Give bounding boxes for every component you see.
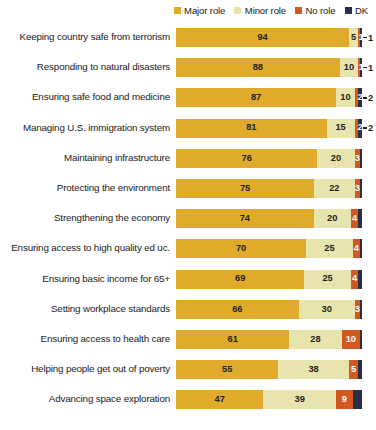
bar-segment-dk[interactable]: 11 [360, 28, 362, 47]
bar-segment-value: 22 [329, 184, 339, 193]
bar-segment-value: 30 [321, 305, 331, 314]
dk-value: 1 [368, 63, 373, 73]
bar-segment-dk[interactable]: 11 [360, 58, 362, 77]
bar-segment-value: 88 [253, 63, 263, 72]
bar-segment-value: 55 [222, 365, 232, 374]
stacked-bar[interactable]: 811522 [176, 119, 362, 138]
bar-segment-minor-role[interactable]: 25 [306, 239, 353, 258]
bar-segment-no-role[interactable]: 4 [353, 239, 360, 258]
bar-segment-major-role[interactable]: 55 [176, 360, 278, 379]
bar-segment-dk[interactable] [358, 360, 362, 379]
bar-segment-major-role[interactable]: 74 [176, 209, 314, 228]
bar-segment-value: 2 [358, 123, 363, 132]
bar-segment-minor-role[interactable]: 5 [349, 28, 358, 47]
legend-item-no-role[interactable]: No role [295, 5, 335, 16]
legend-item-major-role[interactable]: Major role [174, 5, 226, 16]
bar-category-label: Keeping country safe from terrorism [0, 26, 170, 48]
bar-segment-minor-role[interactable]: 20 [317, 149, 354, 168]
bar-segment-minor-role[interactable]: 10 [340, 58, 359, 77]
bar-segment-minor-role[interactable]: 30 [299, 300, 355, 319]
bar-segment-dk[interactable] [360, 149, 362, 168]
chart-row: Maintaining infrastructure76203 [0, 147, 376, 169]
bar-category-label: Managing U.S. immigration system [0, 117, 170, 139]
bar-segment-major-role[interactable]: 87 [176, 88, 336, 107]
bar-segment-value: 47 [215, 395, 225, 404]
bar-segment-value: 76 [242, 154, 252, 163]
bar-segment-value: 69 [235, 274, 245, 283]
bar-segment-dk[interactable]: 22 [358, 88, 362, 107]
bar-segment-major-role[interactable]: 61 [176, 330, 289, 349]
bar-category-label: Ensuring safe food and medicine [0, 86, 170, 108]
bar-segment-minor-role[interactable]: 20 [314, 209, 351, 228]
stacked-bar[interactable]: 47399 [176, 390, 362, 409]
bar-segment-value: 9 [342, 395, 347, 404]
bar-segment-major-role[interactable]: 70 [176, 239, 306, 258]
bar-segment-dk[interactable] [358, 270, 362, 289]
chart-row: Setting workplace standards66303 [0, 298, 376, 320]
bar-segment-value: 10 [340, 93, 350, 102]
bar-segment-minor-role[interactable]: 15 [327, 119, 355, 138]
bar-segment-dk[interactable] [358, 209, 362, 228]
bar-segment-no-role[interactable]: 9 [336, 390, 353, 409]
legend-swatch-minor-role [234, 7, 241, 14]
bar-segment-minor-role[interactable]: 25 [304, 270, 351, 289]
bar-segment-minor-role[interactable]: 22 [314, 179, 355, 198]
legend-label: No role [306, 5, 336, 16]
stacked-bar[interactable]: 75223 [176, 179, 362, 198]
chart-row: Protecting the environment75223 [0, 177, 376, 199]
stacked-bar[interactable]: 55385 [176, 360, 362, 379]
bar-segment-no-role[interactable]: 4 [351, 270, 358, 289]
bar-segment-value: 28 [310, 335, 320, 344]
bar-segment-dk[interactable] [360, 179, 362, 198]
dk-value-callout: 2 [362, 123, 373, 133]
bar-segment-major-role[interactable]: 88 [176, 58, 340, 77]
bar-segment-value: 74 [240, 214, 250, 223]
bar-segment-value: 25 [322, 274, 332, 283]
bar-segment-value: 10 [344, 63, 354, 72]
bar-segment-major-role[interactable]: 76 [176, 149, 317, 168]
stacked-bar[interactable]: 871022 [176, 88, 362, 107]
bar-segment-minor-role[interactable]: 28 [289, 330, 341, 349]
bar-segment-no-role[interactable]: 10 [342, 330, 361, 349]
bar-segment-minor-role[interactable]: 39 [263, 390, 336, 409]
legend-label: DK [355, 5, 368, 16]
bar-segment-minor-role[interactable]: 38 [278, 360, 349, 379]
stacked-bar[interactable]: 74204 [176, 209, 362, 228]
bar-segment-no-role[interactable]: 4 [351, 209, 358, 228]
bar-segment-major-role[interactable]: 75 [176, 179, 314, 198]
bar-segment-value: 70 [236, 244, 246, 253]
bar-segment-value: 66 [232, 305, 242, 314]
stacked-bar[interactable]: 69254 [176, 270, 362, 289]
stacked-bar[interactable]: 94511 [176, 28, 362, 47]
chart-row: Keeping country safe from terrorism94511 [0, 26, 376, 48]
bar-segment-dk[interactable] [353, 390, 362, 409]
bar-segment-no-role[interactable]: 5 [349, 360, 358, 379]
legend-swatch-major-role [174, 7, 181, 14]
bar-segment-major-role[interactable]: 69 [176, 270, 304, 289]
bar-segment-dk[interactable] [360, 330, 362, 349]
chart-legend: Major roleMinor roleNo roleDK [0, 0, 376, 20]
dk-value-callout: 2 [362, 93, 373, 103]
legend-item-dk[interactable]: DK [345, 5, 369, 16]
dk-value: 2 [368, 123, 373, 133]
bar-segment-major-role[interactable]: 94 [176, 28, 349, 47]
bar-segment-dk[interactable]: 22 [358, 119, 362, 138]
stacked-bar[interactable]: 76203 [176, 149, 362, 168]
bar-segment-minor-role[interactable]: 10 [336, 88, 354, 107]
chart-row: Ensuring safe food and medicine871022 [0, 86, 376, 108]
bar-segment-major-role[interactable]: 81 [176, 119, 327, 138]
stacked-bar[interactable]: 70254 [176, 239, 362, 258]
stacked-bar[interactable]: 66303 [176, 300, 362, 319]
bar-category-label: Setting workplace standards [0, 298, 170, 320]
dk-value: 1 [368, 33, 373, 43]
bar-segment-dk[interactable] [360, 300, 362, 319]
legend-label: Minor role [245, 5, 286, 16]
stacked-bar[interactable]: 881011 [176, 58, 362, 77]
bar-category-label: Ensuring access to high quality ed uc. [0, 237, 170, 259]
bar-segment-value: 38 [308, 365, 318, 374]
bar-segment-dk[interactable] [360, 239, 362, 258]
bar-segment-major-role[interactable]: 66 [176, 300, 299, 319]
stacked-bar[interactable]: 612810 [176, 330, 362, 349]
legend-item-minor-role[interactable]: Minor role [234, 5, 286, 16]
bar-segment-major-role[interactable]: 47 [176, 390, 263, 409]
